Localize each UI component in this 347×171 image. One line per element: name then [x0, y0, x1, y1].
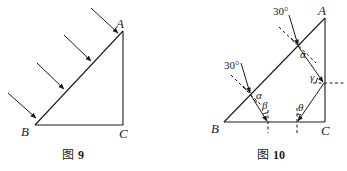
caption-prefix: 图	[62, 148, 74, 162]
figure-10: 30° 30° α α β γ θ A B C 图 10	[211, 3, 345, 162]
vertex-label-b: B	[21, 124, 29, 139]
caption-prefix: 图	[257, 148, 269, 162]
caption-number: 10	[273, 148, 285, 162]
figure-9-caption: 图 9	[62, 148, 84, 162]
diagram-canvas: A B C 图 9	[0, 0, 347, 171]
caption-number: 9	[78, 148, 84, 162]
angle-label-gamma: γ	[310, 71, 315, 83]
angle-label-beta: β	[261, 99, 268, 111]
angle-label-theta: θ	[298, 101, 304, 113]
angle-label-30-upper: 30°	[273, 5, 288, 17]
triangle-abc	[35, 31, 123, 125]
vertex-label-a: A	[115, 16, 124, 31]
vertex-label-b: B	[211, 121, 219, 136]
vertex-label-c: C	[119, 126, 128, 141]
angle-label-30-lower: 30°	[224, 59, 239, 71]
vertex-label-c: C	[321, 123, 330, 138]
incident-light-rays	[8, 8, 118, 118]
angle-label-alpha-upper: α	[300, 48, 306, 60]
figure-9: A B C 图 9	[8, 8, 128, 162]
figure-10-caption: 图 10	[257, 148, 285, 162]
vertex-label-a: A	[317, 3, 326, 18]
